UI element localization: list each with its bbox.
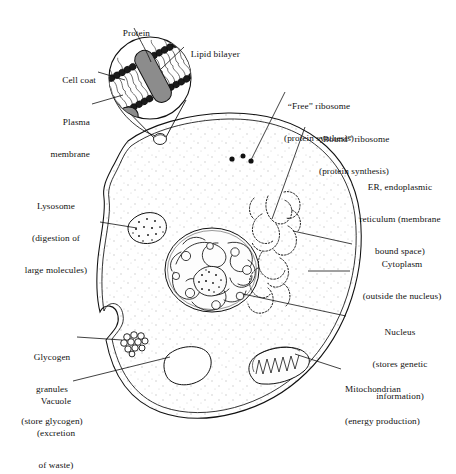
label-vacuole: Vacuole (excretion of waste) <box>18 375 94 474</box>
label-mitochondrion: Mitochondrian (energy production) <box>345 363 456 437</box>
magnifier-target-point <box>154 134 167 145</box>
label-lipid-bilayer: Lipid bilayer <box>186 38 266 59</box>
free-ribosome-dot <box>241 154 246 159</box>
label-cell-coat: Cell coat <box>26 64 96 85</box>
label-lysosome: Lysosome (digestion of large molecules) <box>10 180 102 286</box>
nucleus <box>165 228 259 312</box>
label-protein: Protein <box>98 17 170 38</box>
label-plasma-membrane: Plasma membrane <box>20 96 90 170</box>
nucleolus <box>194 266 227 296</box>
free-ribosome-dot <box>229 156 234 161</box>
label-cytoplasm: Cytoplasm (outside the nucleus) <box>349 238 455 312</box>
